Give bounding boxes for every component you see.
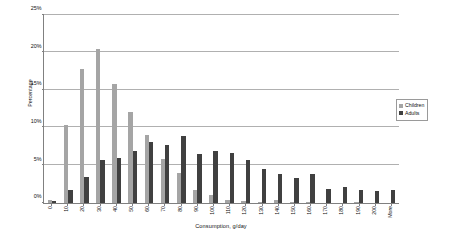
x-axis-label-cell: 180 xyxy=(334,206,350,222)
x-axis-label-cell: 190 xyxy=(351,206,367,222)
x-axis-label-cell: 140 xyxy=(270,206,286,222)
y-axis-tick-label: 25% xyxy=(22,6,42,11)
bar-adults xyxy=(100,160,104,202)
bar-adults xyxy=(149,142,153,203)
x-axis-label-cell: 20 xyxy=(75,206,91,222)
bar-adults xyxy=(294,178,298,202)
bar-group xyxy=(254,15,270,203)
legend-label: Adults xyxy=(405,111,419,116)
y-axis-tick-label: 15% xyxy=(22,82,42,87)
chart-legend: ChildrenAdults xyxy=(396,99,428,121)
legend-item-children[interactable]: Children xyxy=(399,102,424,110)
y-axis-tick-label: 5% xyxy=(22,157,42,162)
x-axis-title: Consumption, g/day xyxy=(43,223,399,229)
x-axis-label-cell: 40 xyxy=(108,206,124,222)
x-axis-tick-label: 70 xyxy=(162,206,167,212)
bar-adults xyxy=(133,151,137,202)
bar-group xyxy=(318,15,334,203)
x-axis-tick-label: 80 xyxy=(178,206,183,212)
x-axis-tick-label: 120 xyxy=(243,206,248,215)
bar-group xyxy=(125,15,141,203)
bar-group xyxy=(141,15,157,203)
bar-adults xyxy=(359,190,363,202)
legend-swatch-icon xyxy=(399,104,403,108)
x-axis-label-cell: 30 xyxy=(92,206,108,222)
x-axis-tick-label: 140 xyxy=(275,206,280,215)
y-axis-tick-label: 0% xyxy=(22,194,42,199)
x-axis-tick-label: 20 xyxy=(81,206,86,212)
x-axis-label-cell: 150 xyxy=(286,206,302,222)
x-axis-tick-label: 160 xyxy=(307,206,312,215)
x-axis-label-cell: 50 xyxy=(124,206,140,222)
bar-adults xyxy=(310,174,314,203)
bar-adults xyxy=(246,160,250,202)
bar-group xyxy=(270,15,286,203)
x-axis-label-cell: 0 xyxy=(43,206,59,222)
y-axis-tick-label: 10% xyxy=(22,119,42,124)
x-axis-tick-label: 130 xyxy=(259,206,264,215)
legend-swatch-icon xyxy=(399,111,403,115)
bar-group xyxy=(173,15,189,203)
x-axis-tick-label: 60 xyxy=(146,206,151,212)
bar-chart: Percentage 0%5%10%15%20%25% 010203040506… xyxy=(0,0,451,243)
bars-layer xyxy=(44,15,399,203)
bar-adults xyxy=(165,145,169,203)
x-axis-label-cell: 110 xyxy=(221,206,237,222)
bar-adults xyxy=(213,151,217,203)
bar-group xyxy=(205,15,221,203)
x-axis-label-cell: 60 xyxy=(140,206,156,222)
bar-group xyxy=(367,15,383,203)
legend-item-adults[interactable]: Adults xyxy=(399,110,424,118)
x-axis-tick-label: 0 xyxy=(48,206,53,209)
y-axis-title: Percentage xyxy=(23,65,37,121)
legend-label: Children xyxy=(405,103,424,108)
bar-group xyxy=(92,15,108,203)
bar-adults xyxy=(326,189,330,203)
x-axis-tick-label: 190 xyxy=(356,206,361,215)
x-axis-label-cell: 170 xyxy=(318,206,334,222)
x-axis-tick-label: 170 xyxy=(324,206,329,215)
x-axis-tick-label: 30 xyxy=(97,206,102,212)
bar-adults xyxy=(391,190,395,203)
x-axis-tick-label: 110 xyxy=(227,206,232,214)
bar-group xyxy=(44,15,60,203)
bar-group xyxy=(60,15,76,203)
x-axis-label-cell: 200 xyxy=(367,206,383,222)
x-axis-tick-label: 200 xyxy=(372,206,377,215)
bar-group xyxy=(302,15,318,203)
bar-adults xyxy=(52,201,56,202)
x-axis-tick-label: More xyxy=(388,206,393,218)
bar-group xyxy=(109,15,125,203)
bar-adults xyxy=(117,158,121,202)
bar-group xyxy=(335,15,351,203)
bar-group xyxy=(222,15,238,203)
x-axis-label-cell: 90 xyxy=(189,206,205,222)
x-axis-tick-label: 10 xyxy=(65,206,70,212)
x-axis-tick-label: 180 xyxy=(340,206,345,215)
x-axis-label-cell: 120 xyxy=(237,206,253,222)
x-axis-label-cell: 160 xyxy=(302,206,318,222)
x-axis-tick-labels: 0102030405060708090100110120130140150160… xyxy=(43,206,399,222)
plot-area: 0%5%10%15%20%25% xyxy=(43,15,399,204)
bar-group xyxy=(189,15,205,203)
x-axis-label-cell: 70 xyxy=(156,206,172,222)
x-axis-label-cell: 100 xyxy=(205,206,221,222)
x-axis-label-cell: 130 xyxy=(253,206,269,222)
x-axis-tick-label: 40 xyxy=(113,206,118,212)
bar-adults xyxy=(84,177,88,203)
bar-group xyxy=(286,15,302,203)
bar-adults xyxy=(375,191,379,202)
bar-adults xyxy=(343,187,347,203)
bar-adults xyxy=(181,136,185,203)
bar-group xyxy=(157,15,173,203)
x-axis-tick-label: 90 xyxy=(194,206,199,212)
bar-group xyxy=(76,15,92,203)
x-axis-label-cell: 10 xyxy=(59,206,75,222)
x-axis-label-cell: 80 xyxy=(173,206,189,222)
bar-adults xyxy=(262,169,266,202)
x-axis-tick-label: 150 xyxy=(291,206,296,215)
y-axis-tick-label: 20% xyxy=(22,44,42,49)
x-axis-tick-label: 50 xyxy=(129,206,134,212)
bar-adults xyxy=(68,190,72,202)
bar-adults xyxy=(278,174,282,203)
